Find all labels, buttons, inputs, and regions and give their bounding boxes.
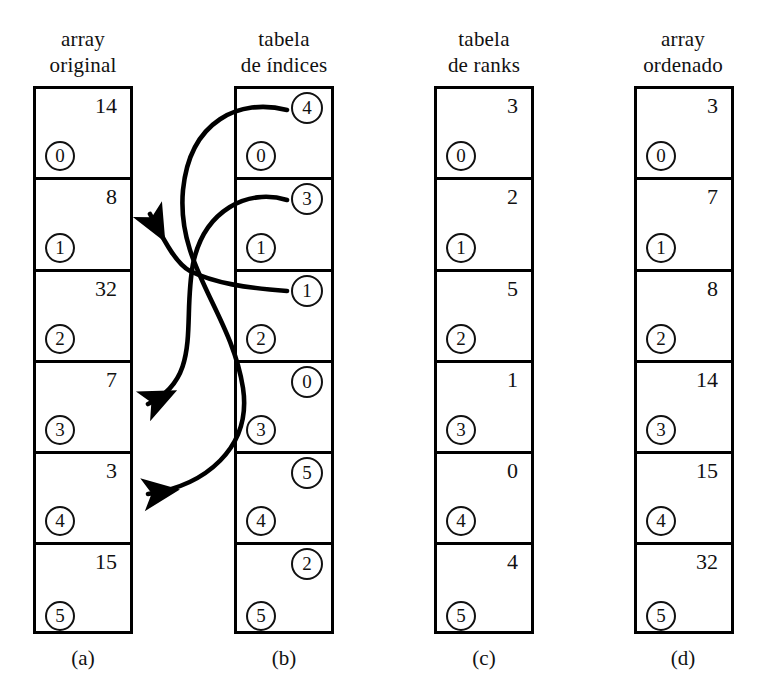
array-cell: 14 0 xyxy=(36,89,130,180)
caption-a: (a) xyxy=(8,646,158,670)
cell-value: 3 xyxy=(106,458,117,484)
cell-value: 2 xyxy=(507,184,518,210)
cell-value: 8 xyxy=(707,276,718,302)
cell-index-badge: 5 xyxy=(246,601,276,631)
cell-value: 8 xyxy=(106,184,117,210)
array-cell: 1 2 xyxy=(237,272,331,363)
array-cell: 5 4 xyxy=(237,454,331,545)
caption-c: (c) xyxy=(409,646,559,670)
cell-value: 3 xyxy=(291,183,323,215)
cell-index-badge: 2 xyxy=(446,324,476,354)
array-cell: 32 2 xyxy=(36,272,130,363)
cell-index-badge: 3 xyxy=(446,415,476,445)
cell-value: 1 xyxy=(507,367,518,393)
cell-index-badge: 0 xyxy=(646,141,676,171)
column-header-array-ordenado: array ordenado xyxy=(608,26,758,78)
array-cell: 14 3 xyxy=(637,363,731,454)
cell-value: 3 xyxy=(707,93,718,119)
cell-value: 5 xyxy=(507,276,518,302)
cell-value: 4 xyxy=(507,549,518,575)
cell-value: 7 xyxy=(707,184,718,210)
array-cell: 32 5 xyxy=(637,545,731,636)
array-cell: 1 3 xyxy=(437,363,531,454)
cell-index-badge: 0 xyxy=(45,141,75,171)
caption-b: (b) xyxy=(209,646,359,670)
cell-index-badge: 4 xyxy=(246,506,276,536)
array-cell: 15 4 xyxy=(637,454,731,545)
array-cell: 3 1 xyxy=(237,180,331,271)
array-cell: 3 4 xyxy=(36,454,130,545)
cell-index-badge: 1 xyxy=(246,233,276,263)
cell-index-badge: 1 xyxy=(446,233,476,263)
column-header-array-original: array original xyxy=(8,26,158,78)
cell-index-badge: 5 xyxy=(646,601,676,631)
array-cell: 8 2 xyxy=(637,272,731,363)
cell-index-badge: 5 xyxy=(45,601,75,631)
cell-index-badge: 2 xyxy=(246,324,276,354)
caption-d: (d) xyxy=(608,646,758,670)
cell-index-badge: 1 xyxy=(45,233,75,263)
cell-index-badge: 3 xyxy=(45,415,75,445)
array-cell: 7 1 xyxy=(637,180,731,271)
cell-value: 2 xyxy=(291,548,323,580)
cell-index-badge: 2 xyxy=(45,324,75,354)
array-cell: 2 5 xyxy=(237,545,331,636)
cell-value: 3 xyxy=(507,93,518,119)
array-cell: 0 4 xyxy=(437,454,531,545)
array-box-array-ordenado: 3 0 7 1 8 2 14 3 15 4 32 5 xyxy=(634,86,734,634)
column-header-tabela-de-ranks: tabela de ranks xyxy=(409,26,559,78)
cell-value: 32 xyxy=(95,276,117,302)
cell-index-badge: 0 xyxy=(246,141,276,171)
cell-index-badge: 4 xyxy=(646,506,676,536)
cell-value: 1 xyxy=(291,275,323,307)
cell-value: 0 xyxy=(291,366,323,398)
cell-index-badge: 1 xyxy=(646,233,676,263)
array-cell: 7 3 xyxy=(36,363,130,454)
cell-value: 14 xyxy=(696,367,718,393)
array-cell: 2 1 xyxy=(437,180,531,271)
array-cell: 0 3 xyxy=(237,363,331,454)
cell-value: 4 xyxy=(291,92,323,124)
indirect-sort-figure: array original tabela de índices tabela … xyxy=(0,0,764,687)
cell-value: 15 xyxy=(95,549,117,575)
cell-index-badge: 3 xyxy=(646,415,676,445)
cell-index-badge: 3 xyxy=(246,415,276,445)
array-box-tabela-de-indices: 4 0 3 1 1 2 0 3 5 4 2 5 xyxy=(234,86,334,634)
cell-index-badge: 0 xyxy=(446,141,476,171)
array-cell: 4 0 xyxy=(237,89,331,180)
array-cell: 4 5 xyxy=(437,545,531,636)
cell-index-badge: 4 xyxy=(446,506,476,536)
cell-value: 0 xyxy=(507,458,518,484)
cell-value: 15 xyxy=(696,458,718,484)
array-cell: 3 0 xyxy=(637,89,731,180)
array-cell: 15 5 xyxy=(36,545,130,636)
array-box-tabela-de-ranks: 3 0 2 1 5 2 1 3 0 4 4 5 xyxy=(434,86,534,634)
cell-value: 5 xyxy=(291,457,323,489)
array-cell: 8 1 xyxy=(36,180,130,271)
cell-value: 7 xyxy=(106,367,117,393)
cell-index-badge: 2 xyxy=(646,324,676,354)
cell-index-badge: 4 xyxy=(45,506,75,536)
cell-value: 14 xyxy=(95,93,117,119)
cell-index-badge: 5 xyxy=(446,601,476,631)
array-cell: 3 0 xyxy=(437,89,531,180)
array-box-array-original: 14 0 8 1 32 2 7 3 3 4 15 5 xyxy=(33,86,133,634)
array-cell: 5 2 xyxy=(437,272,531,363)
cell-value: 32 xyxy=(696,549,718,575)
column-header-tabela-de-indices: tabela de índices xyxy=(209,26,359,78)
